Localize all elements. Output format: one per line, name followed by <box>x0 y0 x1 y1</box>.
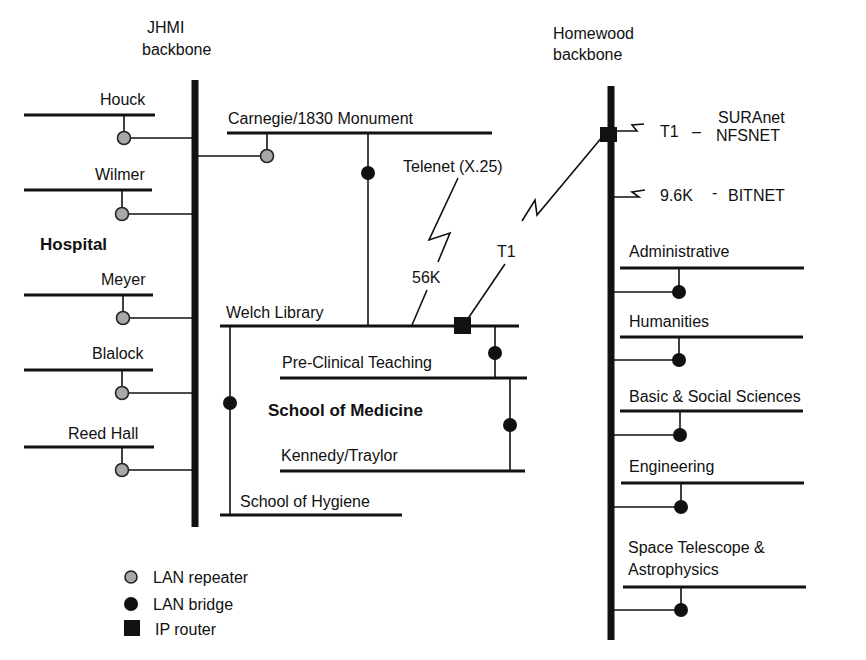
lan-bridge-icon <box>673 428 687 442</box>
lan-bridge-icon <box>361 166 375 180</box>
zigzag-link-icon <box>429 178 458 262</box>
lan-repeater-icon <box>117 312 130 325</box>
lan-bridge-icon <box>672 285 686 299</box>
segment-reed-hall: Reed Hall <box>24 425 195 477</box>
legend-bridge-label: LAN bridge <box>153 596 233 613</box>
telenet-link: Telenet (X.25) 56K <box>403 158 503 325</box>
segment-houck: Houck <box>24 91 195 145</box>
segment-label-wilmer: Wilmer <box>95 166 145 183</box>
segment-label-preclinical: Pre-Clinical Teaching <box>282 354 432 371</box>
segment-label-reed-hall: Reed Hall <box>68 425 138 442</box>
ip-router-icon <box>600 127 617 142</box>
segment-meyer: Meyer <box>24 271 195 325</box>
segment-label-houck: Houck <box>100 91 146 108</box>
suranet-label: SURAnet <box>718 109 785 126</box>
segment-label-welch: Welch Library <box>226 304 324 321</box>
segment-carnegie: Carnegie/1830 Monument <box>195 110 492 325</box>
external-link-suranet: T1 – SURAnet NFSNET <box>614 109 785 144</box>
segment-label-engineering: Engineering <box>629 458 714 475</box>
lan-repeater-icon <box>261 150 274 163</box>
bitnet-label: BITNET <box>728 187 785 204</box>
lan-repeater-icon <box>116 387 129 400</box>
lan-bridge-icon <box>124 597 138 611</box>
segment-label-space-2: Astrophysics <box>628 561 719 578</box>
lan-repeater-icon <box>125 571 137 583</box>
segment-label-space-1: Space Telescope & <box>628 539 765 556</box>
segment-label-kennedy: Kennedy/Traylor <box>281 447 398 464</box>
telenet-label: Telenet (X.25) <box>403 158 503 175</box>
legend-router-label: IP router <box>155 621 217 638</box>
legend-repeater-label: LAN repeater <box>153 569 249 586</box>
legend: LAN repeater LAN bridge IP router <box>124 569 249 638</box>
school-of-medicine-label: School of Medicine <box>268 401 423 420</box>
lan-repeater-icon <box>116 208 129 221</box>
lan-bridge-icon <box>674 500 688 514</box>
ip-router-icon <box>454 317 471 334</box>
segment-label-administrative: Administrative <box>629 243 730 260</box>
homewood-backbone-label-1: Homewood <box>553 25 634 42</box>
ext-t1-dash: – <box>692 123 701 140</box>
lan-bridge-icon <box>503 418 517 432</box>
segment-humanities: Humanities <box>611 313 803 367</box>
nfsnet-label: NFSNET <box>716 127 780 144</box>
segment-label-carnegie: Carnegie/1830 Monument <box>228 110 414 127</box>
zigzag-link-icon <box>614 190 645 197</box>
hospital-group-label: Hospital <box>40 235 107 254</box>
zigzag-link-icon <box>614 124 644 131</box>
jhmi-backbone-label-2: backbone <box>142 41 211 58</box>
lan-repeater-icon <box>116 464 129 477</box>
ip-router-icon <box>124 620 140 636</box>
jhmi-backbone-label-1: JHMI <box>147 19 184 36</box>
network-diagram: JHMI backbone Hospital Houck Wilmer Meye… <box>0 0 866 660</box>
segment-label-blalock: Blalock <box>92 345 145 362</box>
segment-wilmer: Wilmer <box>24 166 195 221</box>
segment-label-humanities: Humanities <box>629 313 709 330</box>
zigzag-link-icon <box>522 136 603 221</box>
segment-kennedy-traylor: Kennedy/Traylor <box>280 447 525 471</box>
lan-bridge-icon <box>674 603 688 617</box>
segment-basic-social: Basic & Social Sciences <box>611 388 803 442</box>
jhmi-backbone: JHMI backbone <box>142 19 211 527</box>
segment-school-of-hygiene: School of Hygiene <box>220 493 402 515</box>
lan-repeater-icon <box>118 132 131 145</box>
ext-96-dash: - <box>712 184 717 201</box>
lan-bridge-icon <box>223 396 237 410</box>
segment-administrative: Administrative <box>611 243 804 299</box>
lan-bridge-icon <box>672 353 686 367</box>
segment-label-hygiene: School of Hygiene <box>240 493 370 510</box>
ext-96-label: 9.6K <box>660 187 693 204</box>
lan-bridge-icon <box>488 346 502 360</box>
homewood-backbone: Homewood backbone <box>553 25 634 640</box>
segment-blalock: Blalock <box>24 345 195 400</box>
homewood-backbone-label-2: backbone <box>553 46 622 63</box>
segment-label-basic: Basic & Social Sciences <box>629 388 801 405</box>
telenet-speed-label: 56K <box>412 269 441 286</box>
segment-engineering: Engineering <box>611 458 804 514</box>
ext-t1-label: T1 <box>660 123 679 140</box>
t1-link-label: T1 <box>497 243 516 260</box>
segment-label-meyer: Meyer <box>101 271 146 288</box>
segment-space-telescope: Space Telescope & Astrophysics <box>611 539 806 617</box>
external-link-bitnet: 9.6K - BITNET <box>614 184 785 204</box>
